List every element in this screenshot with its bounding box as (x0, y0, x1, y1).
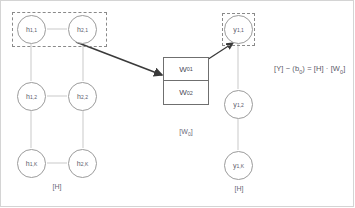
weight-box-caption-close: ] (191, 128, 193, 135)
weight-box-caption-open: [W (179, 128, 188, 135)
weight-cell-w02: W02 (164, 81, 208, 104)
node-y-1-1-sub: 1,1 (237, 27, 244, 33)
equation-label: [Y] − (b0) = [H] · [W0] (274, 64, 345, 75)
weight-cell-w01-label: W (179, 65, 187, 74)
weight-cell-w02-label: W (179, 88, 187, 97)
diagram-canvas: h1,1 h2,1 h1,2 h2,2 h1,K h2,K [H] W01 W0… (0, 0, 355, 208)
weight-cell-w02-sub: 02 (187, 90, 193, 96)
node-y-1-1[interactable]: y1,1 (224, 15, 253, 44)
node-y-1-2[interactable]: y1,2 (224, 90, 253, 119)
hidden-layer-caption: [H] (37, 183, 77, 190)
node-h-1-2-sub: 1,2 (30, 94, 37, 100)
node-h-2-1-sub: 2,1 (81, 27, 88, 33)
equation-part-1: [Y] − (b (274, 64, 299, 73)
node-h-1-K[interactable]: h1,K (17, 149, 46, 178)
node-h-2-2[interactable]: h2,2 (68, 82, 97, 111)
node-h-1-1-sub: 1,1 (30, 27, 37, 33)
node-h-1-2[interactable]: h1,2 (17, 82, 46, 111)
node-h-2-1[interactable]: h2,1 (68, 15, 97, 44)
node-h-1-K-sub: 1,K (30, 161, 38, 167)
node-h-1-1[interactable]: h1,1 (17, 15, 46, 44)
weight-box-caption: [W0] (166, 128, 206, 137)
node-h-2-2-sub: 2,2 (81, 94, 88, 100)
node-y-1-K-sub: 1,K (237, 163, 245, 169)
output-layer-caption: [H] (219, 185, 259, 192)
node-h-2-K-sub: 2,K (81, 161, 89, 167)
node-h-2-K[interactable]: h2,K (68, 149, 97, 178)
equation-part-3: ] (343, 64, 345, 73)
node-y-1-2-sub: 1,2 (237, 102, 244, 108)
weight-cell-w01: W01 (164, 58, 208, 81)
weight-cell-w01-sub: 01 (187, 66, 193, 72)
node-y-1-K[interactable]: y1,K (224, 151, 253, 180)
weight-matrix-box[interactable]: W01 W02 (163, 57, 209, 105)
equation-part-2: ) = [H] · [W (302, 64, 340, 73)
